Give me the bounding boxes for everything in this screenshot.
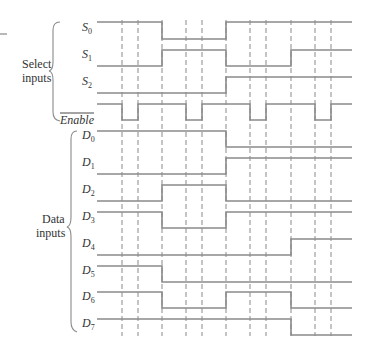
waveform-d6 (97, 292, 352, 308)
waveform-d5 (97, 266, 352, 282)
label-d5: D5 (81, 263, 95, 279)
waveform-d1 (97, 158, 352, 174)
label-d6: D6 (81, 289, 95, 305)
waveform-d7 (97, 319, 352, 335)
waveform-s2 (97, 77, 352, 93)
waveform-d3 (97, 212, 352, 228)
label-d2: D2 (81, 182, 95, 198)
signal-labels: S0S1S2EnableD0D1D2D3D4D5D6D7 (59, 20, 95, 332)
label-d3: D3 (81, 209, 95, 225)
waveform-d0 (97, 131, 352, 147)
waveform-s0 (97, 22, 352, 39)
label-d1: D1 (81, 155, 95, 171)
data-inputs-label-line1: Data (42, 212, 65, 226)
waveform-enable (97, 104, 352, 120)
waveforms (97, 22, 352, 335)
label-enable: Enable (59, 113, 95, 127)
select-inputs-label-line2: inputs (22, 71, 52, 85)
label-s0: S0 (82, 20, 92, 36)
label-d0: D0 (81, 128, 95, 144)
waveform-d2 (97, 185, 352, 201)
timing-diagram: S0S1S2EnableD0D1D2D3D4D5D6D7 Select inpu… (0, 0, 370, 354)
data-inputs-brace (67, 131, 77, 332)
waveform-d4 (97, 239, 352, 255)
select-inputs-label-line1: Select (22, 57, 52, 71)
label-s1: S1 (82, 47, 92, 63)
time-divider-lines (122, 20, 331, 336)
data-inputs-label-line2: inputs (36, 226, 66, 240)
label-s2: S2 (82, 74, 92, 90)
waveform-s1 (97, 50, 352, 66)
label-d7: D7 (81, 316, 95, 332)
label-d4: D4 (81, 236, 95, 252)
